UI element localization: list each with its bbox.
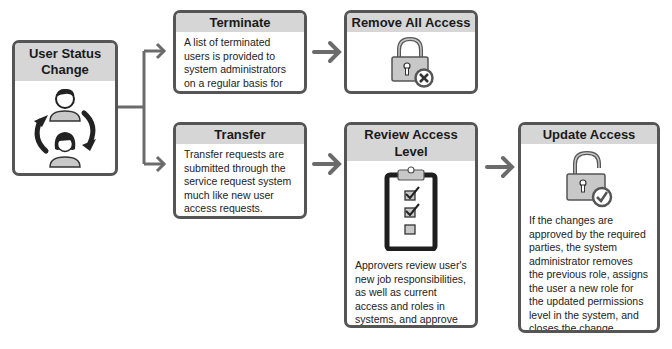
- male-user-icon: [50, 89, 80, 121]
- users-cycle-icon: [20, 85, 110, 169]
- terminate-box: Terminate A list of terminated users is …: [173, 10, 307, 94]
- arrow-review-to-update: [487, 158, 512, 176]
- arrow-transfer-to-review: [314, 155, 339, 173]
- transfer-description: Transfer requests are submitted through …: [176, 144, 304, 219]
- remove-all-access-box: Remove All Access: [344, 10, 478, 94]
- update-access-title: Update Access: [521, 125, 657, 144]
- update-access-description: If the changes are approved by the requi…: [521, 209, 657, 333]
- review-access-level-box: Review Access Level Approvers review use…: [344, 122, 478, 328]
- lock-x-icon: [386, 36, 436, 88]
- user-status-change-box: User Status Change: [12, 40, 118, 176]
- unlock-check-icon: [561, 149, 617, 209]
- user-status-change-title: User Status Change: [15, 43, 115, 81]
- update-access-box: Update Access If the changes are approve…: [518, 122, 660, 333]
- female-user-icon: [50, 132, 80, 167]
- transfer-box: Transfer Transfer requests are submitted…: [173, 122, 307, 219]
- review-access-level-title: Review Access Level: [347, 125, 475, 161]
- arrow-terminate-to-remove: [314, 43, 339, 61]
- remove-all-access-title: Remove All Access: [347, 13, 475, 32]
- terminate-title: Terminate: [176, 13, 304, 32]
- review-access-level-description: Approvers review user's new job responsi…: [347, 251, 475, 328]
- clipboard-checklist-icon: [379, 165, 443, 251]
- terminate-description: A list of terminated users is provided t…: [176, 32, 304, 94]
- transfer-title: Transfer: [176, 125, 304, 144]
- branch-connector: [118, 44, 164, 171]
